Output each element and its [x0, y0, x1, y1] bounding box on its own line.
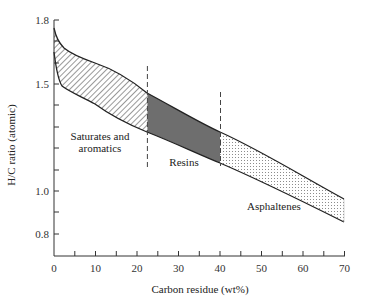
- x-axis-title: Carbon residue (wt%): [151, 283, 248, 296]
- x-tick-label-50: 50: [256, 262, 268, 274]
- x-tick-label-10: 10: [90, 262, 102, 274]
- y-tick-label-1.5: 1.5: [35, 78, 49, 90]
- y-axis-title: H/C ratio (atomic): [5, 104, 18, 186]
- chart: 1.8 1.5 1.0 0.8 0 10 20 30 40 50 60 70 C…: [0, 0, 366, 302]
- x-tick-label-70: 70: [339, 262, 351, 274]
- y-tick-label-0.8: 0.8: [35, 228, 49, 240]
- x-ticks: [75, 251, 345, 256]
- label-saturates-line2: aromatics: [79, 142, 122, 154]
- label-saturates-line1: Saturates and: [71, 130, 130, 142]
- x-tick-label-20: 20: [132, 262, 144, 274]
- y-tick-label-1.8: 1.8: [35, 14, 49, 26]
- y-tick-label-1.0: 1.0: [35, 185, 49, 197]
- label-resins: Resins: [169, 156, 198, 168]
- x-tick-label-60: 60: [298, 262, 310, 274]
- label-asphaltenes: Asphaltenes: [247, 200, 301, 212]
- x-tick-label-0: 0: [51, 262, 57, 274]
- x-tick-label-30: 30: [173, 262, 185, 274]
- upper-boundary-curve: [54, 28, 344, 199]
- x-tick-label-40: 40: [215, 262, 227, 274]
- band-regions: [54, 28, 344, 222]
